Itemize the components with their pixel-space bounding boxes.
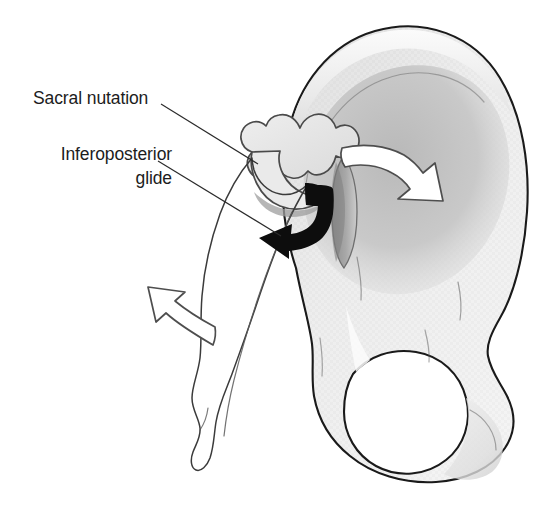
label-sacral-nutation: Sacral nutation <box>33 88 148 108</box>
innominate-bone-group <box>270 10 550 500</box>
illustration-figure: Sacral nutation Inferoposterior glide <box>0 0 555 522</box>
label-inferoposterior-glide-line2: glide <box>136 168 172 188</box>
label-inferoposterior-glide-line1: Inferoposterior <box>61 144 173 164</box>
pelvis-illustration-canvas: Sacral nutation Inferoposterior glide <box>0 0 555 522</box>
obturator-foramen <box>344 351 468 474</box>
coccyx-tip <box>200 408 208 430</box>
coccyx-counter-arrow <box>148 287 215 345</box>
